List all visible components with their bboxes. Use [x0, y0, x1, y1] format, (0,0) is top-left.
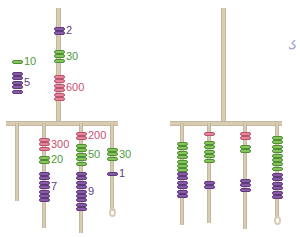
left-string-2-pink-bead — [39, 142, 50, 146]
right-string-4-green-bead — [272, 167, 283, 171]
left-top-purple-bead — [54, 27, 65, 31]
left-string-1-purple-label: 5 — [24, 77, 30, 88]
left-string-2-pink-label: 300 — [51, 139, 69, 150]
right-string-3-green-bead — [240, 149, 251, 153]
left-string-2-green-bead — [39, 156, 50, 160]
left-string-3-green-label: 50 — [88, 149, 100, 160]
left-top-pink-bead — [54, 84, 65, 88]
right-string-2-pink-bead — [204, 132, 215, 136]
left-string-3-purple-label: 9 — [88, 186, 94, 197]
left-top-green-bead — [54, 59, 65, 63]
right-string-1-purple-bead — [177, 194, 188, 198]
right-string-1-green-bead — [177, 146, 188, 150]
left-string-4-green-label: 30 — [119, 149, 131, 160]
left-string-1-green-bead — [12, 60, 23, 64]
right-rope-4-loop — [274, 216, 281, 225]
left-string-2-green-label: 20 — [51, 154, 63, 165]
right-string-4-green-bead — [272, 140, 283, 144]
left-string-3-purple-bead — [76, 185, 87, 189]
left-top-pink-bead — [54, 97, 65, 101]
right-string-2-green-bead — [204, 159, 215, 163]
right-string-2-purple-bead — [204, 181, 215, 185]
left-string-4-purple-label: 1 — [119, 168, 125, 179]
left-string-3-green-bead — [76, 153, 87, 157]
left-string-2-pink-bead — [39, 147, 50, 151]
left-string-2-purple-label: 7 — [51, 181, 57, 192]
right-string-4-purple-bead — [272, 195, 283, 199]
right-string-3-purple-bead — [240, 183, 251, 187]
left-string-3-green-bead — [76, 162, 87, 166]
left-string-1-purple-bead — [12, 81, 23, 85]
right-string-3-pink-bead — [240, 136, 251, 140]
left-string-2-purple-bead — [39, 194, 50, 198]
right-string-1-purple-bead — [177, 190, 188, 194]
left-string-3-purple-bead — [76, 203, 87, 207]
left-string-2-purple-bead — [39, 172, 50, 176]
left-string-1-purple-bead — [12, 85, 23, 89]
left-string-1-purple-bead — [12, 90, 23, 94]
right-string-4-green-bead — [272, 154, 283, 158]
right-string-1-green-bead — [177, 155, 188, 159]
left-string-4-green-bead — [107, 148, 118, 152]
right-string-1-purple-bead — [177, 172, 188, 176]
right-string-2-green-bead — [204, 154, 215, 158]
left-string-2-purple-bead — [39, 198, 50, 202]
left-string-3-green-bead — [76, 148, 87, 152]
right-string-4-green-bead — [272, 136, 283, 140]
left-string-3-purple-bead — [76, 181, 87, 185]
left-string-3-purple-bead — [76, 172, 87, 176]
right-string-2-green-bead — [204, 150, 215, 154]
left-string-2-purple-bead — [39, 185, 50, 189]
left-top-pink-bead — [54, 93, 65, 97]
right-string-1-green-bead — [177, 160, 188, 164]
left-string-2-green-bead — [39, 160, 50, 164]
left-string-4-green-bead — [107, 157, 118, 161]
left-string-2-pink-bead — [39, 138, 50, 142]
left-string-2-purple-bead — [39, 181, 50, 185]
left-string-3-green-bead — [76, 144, 87, 148]
right-string-1-purple-bead — [177, 181, 188, 185]
left-string-3-purple-bead — [76, 190, 87, 194]
left-string-1-green-label: 10 — [24, 56, 36, 67]
right-string-3-purple-bead — [240, 188, 251, 192]
right-string-1-green-bead — [177, 151, 188, 155]
left-top-pink-label: 600 — [66, 82, 84, 93]
left-string-4-green-bead — [107, 152, 118, 156]
right-string-1-green-bead — [177, 164, 188, 168]
left-crossbar — [6, 121, 118, 126]
left-string-4-purple-bead — [107, 172, 118, 176]
left-top-purple-bead — [54, 31, 65, 35]
right-string-1-purple-bead — [177, 176, 188, 180]
right-top-rope — [221, 8, 226, 124]
right-string-2-purple-bead — [204, 185, 215, 189]
right-string-4-purple-bead — [272, 182, 283, 186]
left-string-3-purple-bead — [76, 194, 87, 198]
left-rope-4 — [110, 123, 114, 211]
right-string-4-purple-bead — [272, 177, 283, 181]
left-string-3-pink-label: 200 — [88, 130, 106, 141]
right-string-1-purple-bead — [177, 185, 188, 189]
left-string-2-purple-bead — [39, 176, 50, 180]
left-string-3-purple-bead — [76, 176, 87, 180]
right-string-2-green-bead — [204, 145, 215, 149]
left-string-2-purple-bead — [39, 190, 50, 194]
right-string-3-purple-bead — [240, 179, 251, 183]
left-top-pink-bead — [54, 79, 65, 83]
right-string-4-green-bead — [272, 162, 283, 166]
right-string-4-green-bead — [272, 158, 283, 162]
left-string-1-purple-bead — [12, 76, 23, 80]
right-string-1-green-bead — [177, 142, 188, 146]
right-string-3-green-bead — [240, 145, 251, 149]
left-string-1-purple-bead — [12, 72, 23, 76]
left-top-pink-bead — [54, 88, 65, 92]
right-crossbar — [170, 121, 282, 126]
right-string-4-purple-bead — [272, 173, 283, 177]
right-string-4-purple-bead — [272, 191, 283, 195]
margin-mark: ک — [286, 39, 298, 52]
right-string-3-pink-bead — [240, 132, 251, 136]
right-string-4-green-bead — [272, 149, 283, 153]
left-top-green-label: 30 — [66, 51, 78, 62]
left-top-rope — [56, 8, 61, 124]
left-string-3-pink-bead — [76, 136, 87, 140]
right-string-4-purple-bead — [272, 186, 283, 190]
